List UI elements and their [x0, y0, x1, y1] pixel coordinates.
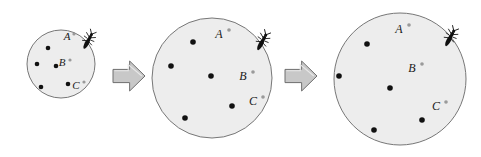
insect-leg-4 [453, 37, 457, 39]
population-dot-5 [182, 115, 188, 121]
insect-leg-6 [263, 43, 267, 46]
insect-antenna-left [451, 26, 455, 30]
point-marker-c [444, 100, 448, 104]
population-dot-1 [46, 46, 51, 51]
population-dot-5 [371, 127, 377, 133]
point-label-a: A [63, 30, 71, 42]
point-label-a: A [214, 27, 223, 41]
population-dot-4 [419, 117, 425, 123]
arrow-2 [285, 61, 317, 91]
insect-leg-4 [265, 41, 269, 43]
population-dot-3 [208, 73, 214, 79]
point-marker-b [420, 62, 424, 66]
insect-leg-3 [84, 36, 88, 38]
insect-leg-2 [454, 33, 458, 37]
insect-antenna-left [263, 30, 267, 34]
point-label-a: A [394, 22, 403, 36]
population-dot-3 [387, 85, 393, 91]
point-label-c: C [249, 94, 258, 108]
population-dot-2 [168, 63, 174, 69]
insect-antenna-left [89, 29, 93, 33]
population-dot-4 [229, 103, 235, 109]
point-marker-a [72, 32, 75, 35]
point-marker-b [68, 58, 71, 61]
population-dot-1 [190, 39, 196, 45]
population-dot-4 [66, 82, 71, 87]
insect-leg-4 [91, 40, 94, 42]
point-label-c: C [72, 79, 80, 91]
point-marker-a [407, 23, 411, 27]
arrow-1 [113, 61, 145, 91]
insect-antenna-right [92, 31, 96, 35]
insect-leg-2 [266, 37, 270, 41]
point-marker-b [251, 70, 255, 74]
insect-antenna-right [455, 28, 459, 32]
population-dot-5 [39, 85, 44, 90]
insect-leg-3 [258, 37, 262, 39]
point-marker-a [227, 28, 231, 32]
point-label-b: B [239, 69, 247, 83]
population-dot-3 [54, 64, 59, 69]
insect-antenna-right [267, 32, 271, 36]
diagram-canvas: ABCABCABC [0, 0, 481, 157]
point-marker-c [261, 95, 265, 99]
population-dot-2 [336, 73, 342, 79]
point-label-b: B [59, 56, 66, 68]
stage-1: ABC [27, 28, 98, 98]
point-label-c: C [432, 99, 441, 113]
point-marker-c [82, 80, 85, 83]
population-dot-1 [364, 41, 370, 47]
insect-leg-2 [91, 36, 95, 39]
progression-diagram: ABCABCABC [0, 0, 481, 157]
point-label-b: B [408, 61, 416, 75]
stage-3: ABC [334, 13, 466, 145]
population-dot-2 [35, 62, 40, 67]
stage-2: ABC [152, 18, 273, 138]
